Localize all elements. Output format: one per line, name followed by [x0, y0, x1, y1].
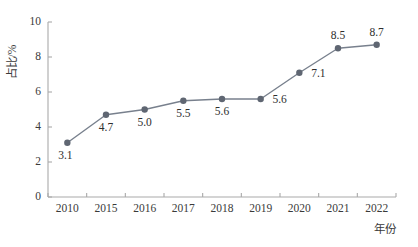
data-point-value-label: 8.7 — [369, 26, 384, 38]
data-point-value-label: 3.1 — [58, 149, 73, 161]
data-point-value-label: 5.0 — [137, 116, 152, 128]
data-point-value-label: 5.5 — [176, 107, 191, 119]
data-point-value-label: 4.7 — [99, 121, 114, 133]
data-point-value-label: 7.1 — [311, 67, 326, 79]
data-point-marker — [335, 45, 341, 51]
line-chart: 0246810 20102015201620172018201920202021… — [0, 0, 418, 247]
data-point-marker — [180, 98, 186, 104]
x-axis-title: 年份 — [374, 222, 397, 235]
data-point-marker — [141, 106, 147, 112]
x-tick-label: 2019 — [249, 202, 272, 214]
data-point-marker — [296, 70, 302, 76]
data-point-marker — [257, 96, 263, 102]
x-tick-label: 2016 — [133, 202, 156, 214]
x-tick-label: 2021 — [327, 202, 350, 214]
data-point-marker — [373, 42, 379, 48]
data-point-value-label: 5.6 — [272, 93, 287, 105]
chart-canvas: 0246810 20102015201620172018201920202021… — [0, 0, 418, 247]
y-tick-label: 2 — [35, 155, 41, 167]
y-tick-label: 0 — [35, 190, 41, 202]
data-point-marker — [103, 112, 109, 118]
y-tick-label: 8 — [35, 50, 41, 62]
x-tick-label: 2020 — [288, 202, 311, 214]
x-tick-label: 2017 — [172, 202, 195, 214]
data-point-marker — [219, 96, 225, 102]
x-tick-label: 2022 — [365, 202, 388, 214]
x-tick-label: 2018 — [211, 202, 234, 214]
x-tick-label: 2010 — [56, 202, 79, 214]
data-point-marker — [64, 140, 70, 146]
x-tick-label: 2015 — [95, 202, 118, 214]
data-point-value-label: 5.6 — [215, 105, 230, 117]
data-point-value-label: 8.5 — [331, 29, 346, 41]
y-tick-label: 10 — [30, 15, 42, 27]
y-tick-label: 4 — [35, 120, 41, 132]
y-tick-label: 6 — [35, 85, 41, 97]
y-axis-title: 占比/% — [5, 44, 18, 79]
